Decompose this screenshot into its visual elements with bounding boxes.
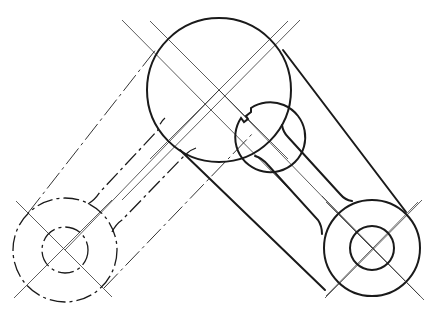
center-lines [14, 20, 424, 300]
left-eye-centerline-1 [16, 201, 112, 297]
left-arm-inner-edge [104, 132, 254, 288]
left-arm-web-upper [88, 118, 165, 204]
right-eye [324, 200, 420, 296]
right-arm-inner-edge [180, 150, 325, 290]
right-arm-outer-edge [283, 50, 406, 212]
right-arm [180, 50, 406, 290]
left-arm-web-lower [112, 148, 196, 232]
left-eye-centerline-2 [14, 200, 112, 298]
hub-bore-with-keyway [235, 102, 305, 172]
left-arm-centerline [65, 90, 219, 250]
linkage-drawing: Linkage mechanism technical drawing [0, 0, 439, 320]
left-arm [28, 48, 254, 288]
left-arm-outer-edge [28, 48, 157, 213]
